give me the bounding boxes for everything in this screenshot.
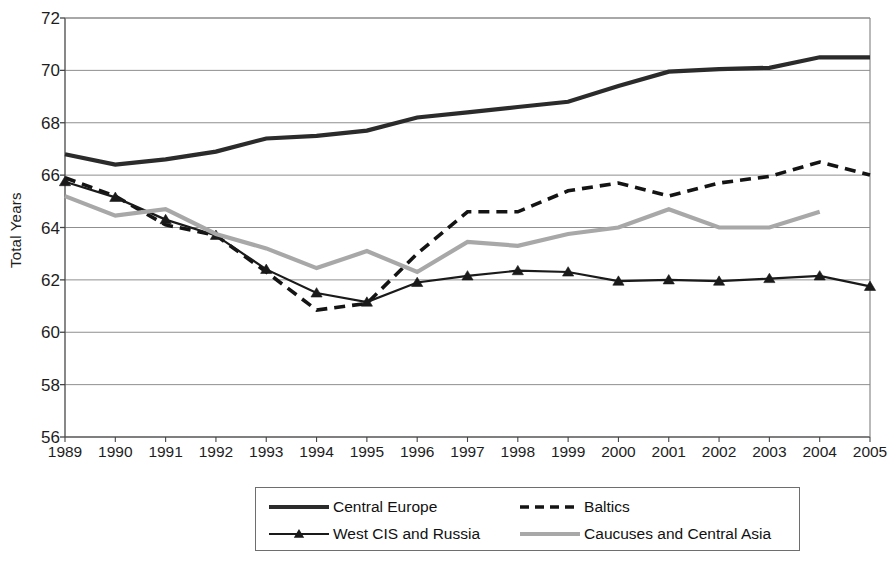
x-tick-label: 1997	[450, 444, 484, 460]
legend-entry-west-cis-and-russia[interactable]: West CIS and Russia	[256, 520, 513, 547]
x-tick-label: 1996	[400, 444, 434, 460]
y-tick-label: 72	[24, 10, 60, 27]
x-tick-label: 2004	[802, 444, 836, 460]
legend-label-west-cis-and-russia: West CIS and Russia	[333, 526, 480, 542]
legend-entry-caucuses-and-central-asia[interactable]: Caucuses and Central Asia	[513, 520, 799, 547]
legend-label-caucuses-and-central-asia: Caucuses and Central Asia	[584, 526, 771, 542]
x-tick-label: 1995	[350, 444, 384, 460]
legend: Central Europe Baltics West CIS and Russ…	[255, 487, 800, 551]
x-tick-label: 2001	[652, 444, 686, 460]
series-line-central-europe	[65, 57, 870, 164]
legend-swatch-west-cis-and-russia	[268, 526, 330, 542]
y-tick-label: 60	[24, 324, 60, 341]
x-tick-label: 2000	[601, 444, 635, 460]
y-tick-label: 62	[24, 271, 60, 288]
x-tick-label: 2003	[752, 444, 786, 460]
legend-entry-baltics[interactable]: Baltics	[513, 493, 799, 520]
y-tick-label: 66	[24, 167, 60, 184]
x-tick-label: 1990	[98, 444, 132, 460]
legend-row: West CIS and Russia Caucuses and Central…	[256, 520, 799, 547]
x-tick-label: 2002	[702, 444, 736, 460]
y-tick-label: 64	[24, 219, 60, 236]
x-tick-label: 1994	[299, 444, 333, 460]
x-tick-label: 1993	[249, 444, 283, 460]
y-tick-label: 58	[24, 376, 60, 393]
legend-swatch-caucuses-and-central-asia	[519, 526, 581, 542]
gridlines	[65, 18, 870, 385]
y-tick-label: 70	[24, 62, 60, 79]
x-tick-label: 1989	[48, 444, 82, 460]
legend-label-central-europe: Central Europe	[333, 499, 437, 515]
legend-swatch-baltics	[519, 499, 581, 515]
legend-row: Central Europe Baltics	[256, 493, 799, 520]
x-tick-label: 1998	[501, 444, 535, 460]
y-tick-label: 68	[24, 114, 60, 131]
legend-swatch-central-europe	[268, 499, 330, 515]
x-tick-label: 1992	[199, 444, 233, 460]
series-line-baltics	[65, 162, 870, 310]
data-series-layer	[59, 57, 875, 310]
x-tick-label: 1999	[551, 444, 585, 460]
x-tick-label: 1991	[148, 444, 182, 460]
x-tick-label: 2005	[853, 444, 887, 460]
legend-label-baltics: Baltics	[584, 499, 630, 515]
y-axis-tick-labels: 727068666462605856	[22, 0, 60, 460]
legend-entry-central-europe[interactable]: Central Europe	[256, 493, 513, 520]
